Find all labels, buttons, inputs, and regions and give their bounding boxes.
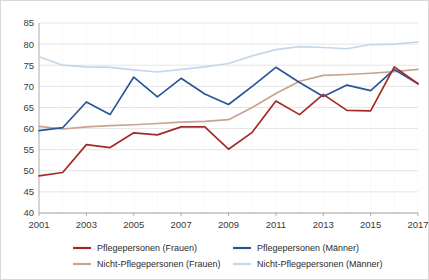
x-axis-tick-label: 2015 — [360, 219, 381, 230]
legend-label-3: Nicht-Pflegepersonen (Frauen) — [97, 259, 221, 269]
x-axis-tick-label: 2013 — [313, 219, 334, 230]
y-axis-tick-label: 50 — [23, 165, 34, 176]
y-axis-tick-label: 55 — [23, 144, 34, 155]
y-axis-tick-label: 70 — [23, 81, 34, 92]
legend-label-1: Pflegepersonen (Frauen) — [97, 243, 197, 253]
x-axis-tick-label: 2011 — [266, 219, 286, 230]
y-axis-tick-label: 60 — [23, 123, 34, 134]
y-axis-tick-label: 75 — [23, 60, 34, 71]
x-axis-tick-label: 2017 — [407, 219, 428, 230]
y-axis-tick-label: 45 — [23, 186, 34, 197]
y-axis-tick-label: 85 — [23, 17, 34, 28]
legend-label-2: Pflegepersonen (Männer) — [257, 243, 359, 253]
y-axis-tick-label: 40 — [23, 207, 34, 218]
x-axis-tick-label: 2001 — [28, 219, 49, 230]
plot-area: 4045505560657075808520012003200520072009… — [1, 1, 429, 280]
legend-label-4: Nicht-Pflegepersonen (Männer) — [257, 259, 383, 269]
x-axis-tick-label: 2007 — [171, 219, 192, 230]
line-chart-svg: 4045505560657075808520012003200520072009… — [1, 1, 429, 280]
x-axis-tick-label: 2009 — [218, 219, 239, 230]
y-axis-tick-label: 80 — [23, 39, 34, 50]
x-axis-tick-label: 2003 — [76, 219, 97, 230]
chart-container: 4045505560657075808520012003200520072009… — [0, 0, 429, 280]
x-axis-tick-label: 2005 — [123, 219, 144, 230]
y-axis-tick-label: 65 — [23, 102, 34, 113]
